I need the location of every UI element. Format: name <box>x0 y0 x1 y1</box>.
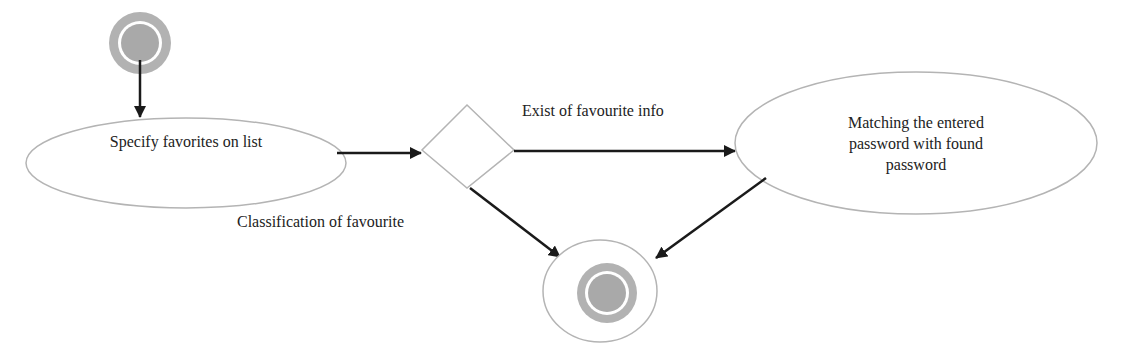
edge-matching-to-end <box>656 178 766 258</box>
activity-matching-password-label: Matching the entered password with found… <box>826 112 1006 175</box>
edge-label-exist-of-favourite-info: Exist of favourite info <box>522 101 664 121</box>
decision-node[interactable] <box>422 105 514 188</box>
matching-label-line-2: password with found <box>826 133 1006 154</box>
activity-diagram-canvas <box>0 0 1126 357</box>
edge-decision-to-end <box>470 188 560 257</box>
edge-label-classification-of-favourite: Classification of favourite <box>237 212 404 232</box>
matching-label-line-3: password <box>826 154 1006 175</box>
activity-specify-favorites-label: Specify favorites on list <box>86 131 286 152</box>
matching-label-line-1: Matching the entered <box>826 112 1006 133</box>
final-node[interactable] <box>543 240 657 342</box>
